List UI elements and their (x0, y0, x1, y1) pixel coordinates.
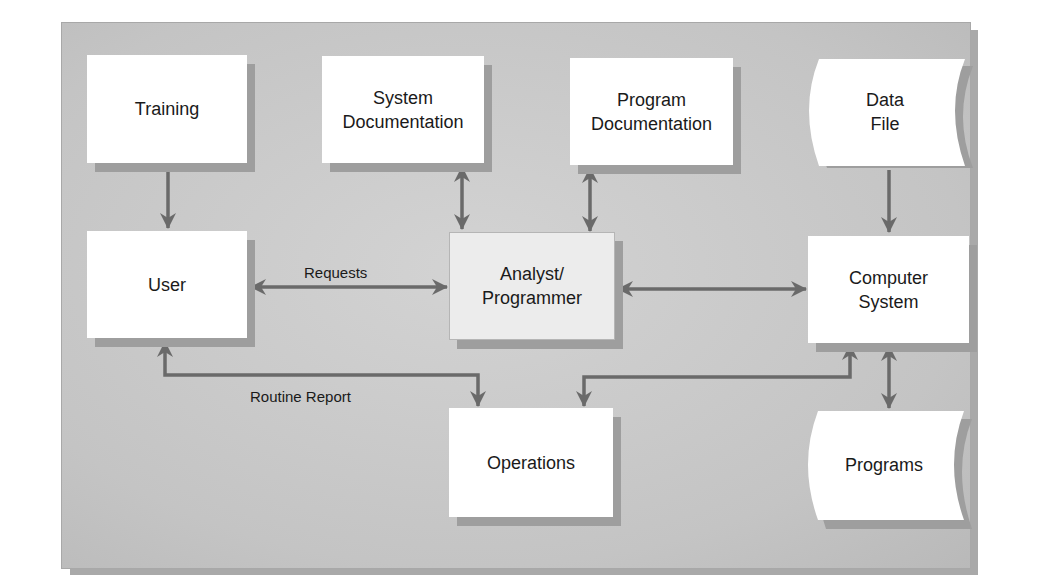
node-label: Data File (805, 58, 965, 166)
node-label: System Documentation (342, 86, 463, 134)
node-program-documentation: Program Documentation (570, 58, 733, 165)
node-label: Analyst/ Programmer (482, 262, 582, 310)
node-label: Training (135, 97, 199, 121)
node-training: Training (87, 55, 247, 163)
node-label: Program Documentation (591, 88, 712, 136)
node-computer-system: Computer System (808, 236, 969, 343)
node-label: Computer System (849, 266, 928, 314)
node-programs: Programs (804, 410, 976, 530)
edge-label-routine-report: Routine Report (250, 388, 351, 405)
node-user: User (87, 231, 247, 338)
node-label: Programs (804, 410, 964, 520)
node-system-documentation: System Documentation (322, 56, 484, 163)
node-analyst-programmer: Analyst/ Programmer (449, 232, 615, 340)
node-label: User (148, 273, 186, 297)
node-label: Operations (487, 451, 575, 475)
node-data-file: Data File (805, 58, 977, 176)
edge-label-requests: Requests (304, 264, 367, 281)
arrow-operations-computer (584, 345, 850, 406)
node-operations: Operations (449, 408, 613, 517)
